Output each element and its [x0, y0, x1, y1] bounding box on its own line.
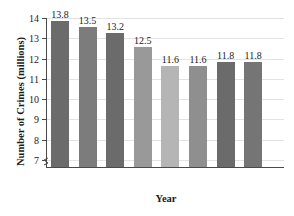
- y-tick-label: 14: [29, 13, 39, 24]
- bar[interactable]: [217, 62, 235, 167]
- y-tick-label: 12: [29, 53, 39, 64]
- bar[interactable]: [51, 21, 69, 167]
- y-tick-label: 10: [29, 94, 39, 105]
- bar[interactable]: [189, 66, 207, 167]
- y-tick-label: 11: [29, 73, 39, 84]
- bar[interactable]: [244, 62, 262, 167]
- x-axis-title: Year: [46, 193, 286, 204]
- y-tick-label: 13: [29, 33, 39, 44]
- y-tick-label: 8: [34, 134, 39, 145]
- bar-value-label: 11.8: [236, 50, 270, 61]
- bar[interactable]: [134, 47, 152, 167]
- y-tick-label: 9: [34, 114, 39, 125]
- bar-group: 13.8199513.5199613.2199712.5199811.61999…: [47, 18, 284, 167]
- plot-area: 7891011121314 13.8199513.5199613.2199712…: [46, 18, 284, 168]
- bar-value-label: 12.5: [126, 35, 160, 46]
- bar[interactable]: [79, 27, 97, 167]
- bar[interactable]: [161, 66, 179, 167]
- y-axis-title: Number of Crimes (millions): [15, 27, 26, 177]
- bar-value-label: 13.2: [98, 21, 132, 32]
- x-axis-line: [46, 167, 284, 168]
- bar[interactable]: [106, 33, 124, 167]
- y-tick-label: 7: [34, 154, 39, 165]
